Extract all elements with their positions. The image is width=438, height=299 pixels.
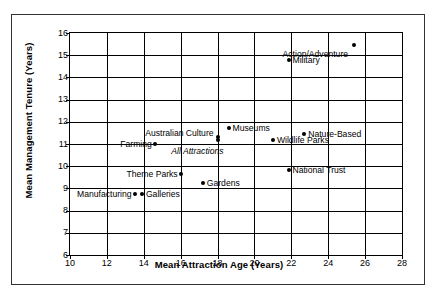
- gridline-horizontal: [70, 233, 402, 234]
- data-point: [140, 192, 144, 196]
- x-tick-label: 26: [345, 259, 385, 268]
- data-point: [153, 142, 157, 146]
- data-point-label: National Trust: [292, 165, 345, 174]
- y-tick-label: 9: [28, 184, 68, 193]
- data-point-label: Galleries: [146, 189, 180, 198]
- data-point: [227, 126, 231, 130]
- data-point: [179, 172, 183, 176]
- x-tick-label: 12: [87, 259, 127, 268]
- y-tick-label: 10: [28, 162, 68, 171]
- data-point-label: Military: [292, 55, 319, 64]
- x-tick-label: 28: [382, 259, 422, 268]
- chart-figure: Mean Management Tenure (Years) Mean Attr…: [11, 14, 425, 285]
- y-tick-label: 16: [28, 29, 68, 38]
- x-tick-label: 24: [308, 259, 348, 268]
- data-point: [352, 43, 356, 47]
- x-tick-label: 20: [234, 259, 274, 268]
- data-point: [216, 138, 220, 142]
- gridline-horizontal: [70, 55, 402, 56]
- data-point-label: Theme Parks: [127, 169, 178, 178]
- data-point: [271, 138, 275, 142]
- gridline-horizontal: [70, 77, 402, 78]
- y-tick-label: 6: [28, 251, 68, 260]
- data-point-label: Farming: [120, 140, 152, 149]
- gridline-horizontal: [70, 211, 402, 212]
- x-tick-label: 18: [198, 259, 238, 268]
- y-tick-label: 11: [28, 140, 68, 149]
- x-tick-label: 14: [124, 259, 164, 268]
- data-point-label: Australian Culture: [145, 129, 213, 138]
- y-tick-label: 8: [28, 206, 68, 215]
- x-tick-label: 10: [50, 259, 90, 268]
- y-tick-label: 7: [28, 228, 68, 237]
- plot-area: 10121416182022242628678910111213141516 A…: [69, 32, 403, 256]
- data-point-label: Museums: [233, 124, 270, 133]
- y-tick-label: 13: [28, 95, 68, 104]
- data-point-label: Gardens: [207, 178, 240, 187]
- gridline-horizontal: [70, 166, 402, 167]
- y-tick-label: 15: [28, 51, 68, 60]
- data-point-label: Wildlife Parks: [277, 135, 329, 144]
- data-point-label: Manufacturing: [77, 189, 131, 198]
- data-point: [133, 192, 137, 196]
- x-tick-label: 22: [271, 259, 311, 268]
- x-tick-label: 16: [161, 259, 201, 268]
- y-tick-label: 12: [28, 117, 68, 126]
- gridline-horizontal: [70, 100, 402, 101]
- y-tick-label: 14: [28, 73, 68, 82]
- data-point-label: All Attractions: [171, 146, 223, 155]
- data-point: [201, 181, 205, 185]
